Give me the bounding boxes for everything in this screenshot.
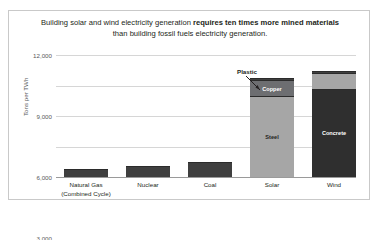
chart-title: Building solar and wind electricity gene… (19, 18, 361, 39)
bar-group[interactable]: Coal (188, 55, 232, 177)
chart-figure: Building solar and wind electricity gene… (8, 10, 370, 200)
bar-segment[interactable] (64, 169, 108, 177)
bar-segment[interactable] (312, 71, 356, 73)
stacked-bar[interactable] (126, 166, 170, 177)
chart-subtitle-line: than building fossil fuels electricity g… (19, 29, 361, 40)
bar-segment-label: Concrete (322, 130, 346, 136)
chart-title-part-bold: requires ten times more mined materials (193, 18, 339, 27)
bar-group[interactable]: Natural Gas(Combined Cycle) (64, 55, 108, 177)
bar-segment[interactable] (126, 166, 170, 177)
y-axis-label: Tons per TWh (22, 78, 29, 116)
x-axis-line: 0 (56, 177, 356, 178)
bar-segment[interactable] (250, 78, 294, 80)
y-axis-tick-label: 12,000 (33, 52, 52, 59)
plastic-callout-label: Plastic (237, 68, 257, 75)
stacked-bar[interactable]: SteelCopper (250, 78, 294, 177)
bar-segment[interactable]: Concrete (312, 89, 356, 177)
stacked-bar[interactable]: Concrete (312, 71, 356, 177)
bar-segment[interactable]: Steel (250, 96, 294, 177)
bar-group[interactable]: ConcreteWind (312, 55, 356, 177)
stacked-bar[interactable] (188, 162, 232, 177)
x-axis-tick-label: Wind (298, 181, 370, 190)
plot-area: 03,0006,0009,00012,000Natural Gas(Combin… (56, 55, 356, 177)
x-axis-tick-line: (Combined Cycle) (50, 190, 122, 199)
bar-group[interactable]: Nuclear (126, 55, 170, 177)
y-axis-tick-label: 9,000 (37, 113, 52, 120)
x-axis-tick-line: Wind (298, 181, 370, 190)
bar-segment[interactable]: Copper (250, 80, 294, 95)
y-axis-tick-label: 6,000 (37, 174, 52, 181)
bar-segment[interactable] (188, 162, 232, 177)
stacked-bar[interactable] (64, 169, 108, 177)
bar-segment[interactable] (312, 73, 356, 89)
bar-segment-label: Steel (265, 134, 278, 140)
bar-segment-label: Copper (262, 86, 282, 92)
chart-title-part-normal: Building solar and wind electricity gene… (41, 18, 193, 27)
